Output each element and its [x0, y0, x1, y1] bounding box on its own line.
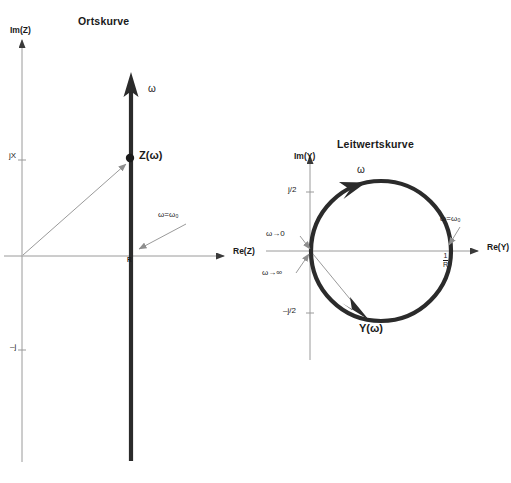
limit-infinity-leader — [296, 254, 309, 273]
diagram-canvas — [0, 0, 511, 483]
limit-zero-label: ω→0 — [266, 230, 285, 238]
limit-zero-leader — [300, 236, 310, 249]
left-plot-axes — [4, 40, 224, 462]
right-imaginary-axis-label: Im(Y) — [294, 152, 315, 161]
right-direction-label: ω — [357, 165, 365, 175]
x-intercept-numerator: 1 — [443, 252, 448, 259]
right-tick-label-minus-j-half: –j/2 — [283, 307, 296, 315]
left-tick-label-minus-j: –j — [10, 343, 16, 351]
right-real-axis-label: Re(Y) — [487, 243, 509, 252]
left-plot-title: Ortskurve — [78, 16, 129, 27]
admittance-point-label: Y(ω) — [359, 323, 383, 334]
locus-diagram-figure: Ortskurve Im(Z) Re(Z) jX –j R Z(ω) ω ω=ω… — [0, 0, 511, 483]
left-imaginary-axis-label: Im(Z) — [10, 26, 31, 35]
left-direction-label: ω — [148, 84, 156, 94]
right-tick-label-j-half: j/2 — [288, 186, 296, 194]
x-intercept-denominator: R — [443, 261, 448, 268]
left-tick-label-jx: jX — [9, 152, 16, 160]
left-x-intercept-label: R — [127, 257, 132, 264]
left-real-axis-label: Re(Z) — [233, 247, 255, 256]
right-x-intercept-label: 1 R — [443, 252, 448, 270]
impedance-phasor-vector — [23, 164, 126, 255]
impedance-point-label: Z(ω) — [139, 150, 162, 161]
impedance-locus-curve — [124, 72, 139, 461]
impedance-point-marker — [126, 154, 134, 162]
limit-infinity-label: ω→∞ — [262, 269, 282, 277]
left-resonance-label: ω=ω₀ — [158, 211, 178, 219]
right-resonance-label: ω=ω₀ — [440, 215, 460, 223]
left-resonance-leader — [139, 224, 186, 249]
right-plot-title: Leitwertskurve — [337, 139, 414, 150]
